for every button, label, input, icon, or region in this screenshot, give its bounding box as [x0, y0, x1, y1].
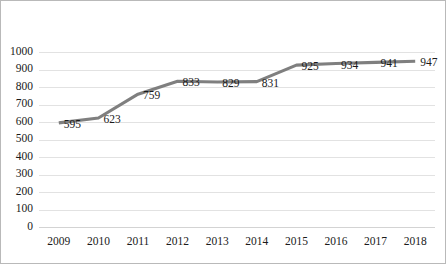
- x-axis-tick-label: 2016: [325, 235, 348, 247]
- y-axis-tick-label: 800: [16, 80, 34, 92]
- data-point-label: 941: [381, 57, 399, 69]
- data-point-label: 925: [301, 60, 319, 72]
- y-axis-tick-label: 500: [16, 132, 34, 144]
- x-axis-tick-label: 2010: [87, 235, 110, 247]
- data-point-label: 759: [143, 89, 161, 101]
- y-axis-tick-labels: 10009008007006005004003002001000: [10, 45, 33, 232]
- x-axis-tick-label: 2017: [364, 235, 387, 247]
- line-chart-svg: 10009008007006005004003002001000 2009201…: [1, 1, 446, 264]
- data-point-label: 947: [420, 56, 438, 68]
- data-point-label: 934: [341, 59, 359, 71]
- x-axis-tick-label: 2009: [47, 235, 70, 247]
- y-axis-tick-label: 200: [16, 185, 34, 197]
- plot-area: 10009008007006005004003002001000 2009201…: [1, 1, 446, 264]
- y-axis-tick-label: 700: [16, 97, 34, 109]
- x-axis-tick-labels: 2009201020112012201320142015201620172018: [47, 235, 427, 247]
- data-point-label: 831: [262, 77, 280, 89]
- y-axis-tick-label: 400: [16, 150, 34, 162]
- x-axis-tick-label: 2013: [206, 235, 229, 247]
- y-axis-tick-label: 300: [16, 167, 34, 179]
- data-point-label: 623: [103, 113, 121, 125]
- data-point-label: 833: [183, 76, 201, 88]
- y-axis-tick-label: 900: [16, 62, 34, 74]
- y-axis-tick-label: 600: [16, 115, 34, 127]
- y-axis-tick-label: 1000: [10, 45, 33, 57]
- x-axis-tick-label: 2011: [127, 235, 150, 247]
- y-axis-tick-label: 100: [16, 202, 34, 214]
- y-axis-tick-label: 0: [27, 220, 33, 232]
- data-point-label: 595: [64, 118, 82, 130]
- data-point-label: 829: [222, 77, 240, 89]
- chart-container: 10009008007006005004003002001000 2009201…: [0, 0, 446, 264]
- x-axis-tick-label: 2018: [404, 235, 427, 247]
- x-axis-tick-label: 2014: [245, 235, 268, 247]
- data-point-labels: 595623759833829831925934941947: [64, 56, 438, 130]
- x-axis-tick-label: 2012: [166, 235, 189, 247]
- x-axis-tick-label: 2015: [285, 235, 308, 247]
